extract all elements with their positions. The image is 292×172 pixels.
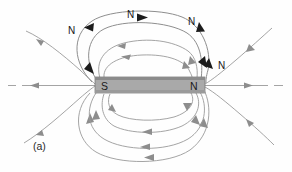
arrow-upper-second-left-icon xyxy=(84,62,94,74)
arrow-lower-second-left-icon xyxy=(92,110,100,120)
lower-field-loop-outer xyxy=(79,90,209,162)
field-line-upper-third xyxy=(99,40,198,78)
annotation-n-upper-left: N xyxy=(68,25,75,36)
axis-arrow-left-icon xyxy=(30,83,39,89)
annotation-n-top-center: N xyxy=(127,9,134,20)
field-line-right-upper xyxy=(205,28,272,84)
field-line-lower-outer xyxy=(79,90,209,162)
figure-caption: (a) xyxy=(33,140,46,152)
arrow-left-lower-icon xyxy=(36,130,44,136)
arrow-right-lower-icon xyxy=(246,119,254,127)
arrow-upper-second-right-icon xyxy=(198,56,207,68)
north-pole-label: N xyxy=(190,80,198,92)
lower-field-loop-inner xyxy=(108,93,193,120)
field-line-upper-inner xyxy=(104,55,192,77)
arrow-upper-inner-left-icon xyxy=(121,55,131,61)
arrow-lower-inner-right-icon xyxy=(183,103,192,111)
axis-arrow-right-icon xyxy=(244,83,253,89)
figure-canvas: S N N N N N (a) xyxy=(0,0,292,172)
lower-field-loop-second xyxy=(89,92,204,150)
field-line-left-upper xyxy=(26,31,95,84)
field-line-left-lower xyxy=(24,86,95,143)
field-line-upper-second xyxy=(89,23,202,80)
arrow-upper-outer-right-icon xyxy=(196,22,205,32)
arrow-upper-outer-top-icon xyxy=(137,14,148,22)
arrow-upper-outer-left-icon xyxy=(84,23,94,32)
right-field-lines xyxy=(205,28,274,145)
arrow-lower-second-bottom-icon xyxy=(140,144,150,151)
arrow-lower-second-right-icon xyxy=(191,115,200,125)
annotation-n-upper-right: N xyxy=(188,16,195,27)
annotation-n-mid-right: N xyxy=(218,60,225,71)
upper-field-loop-third xyxy=(99,40,198,78)
field-line-lower-inner xyxy=(109,93,193,120)
arrow-lower-third-bottom-icon xyxy=(142,129,152,136)
bar-magnet: S N xyxy=(95,77,205,93)
magnet-top-edge xyxy=(95,77,205,80)
magnetic-field-figure: S N N N N N (a) xyxy=(0,0,292,172)
arrow-lower-outer-bottom-icon xyxy=(144,154,154,161)
south-pole-label: S xyxy=(101,80,108,92)
magnet-bottom-edge xyxy=(95,90,205,93)
field-line-right-lower xyxy=(205,87,274,145)
left-field-lines xyxy=(24,31,95,143)
upper-field-loop-inner xyxy=(104,55,192,78)
arrow-right-upper-icon xyxy=(246,44,255,52)
